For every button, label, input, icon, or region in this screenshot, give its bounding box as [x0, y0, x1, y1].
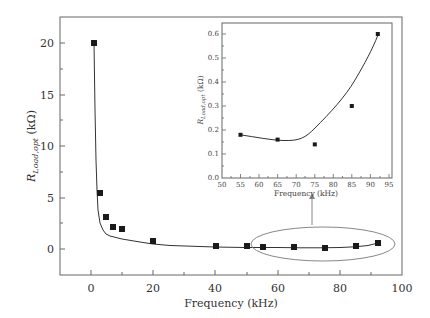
inset-y-tick-0.0: 0.0	[208, 174, 219, 182]
y-tick-5: 5	[47, 192, 54, 205]
chart-figure: 0 20 40 60 80 100 Frequency (kHz) 0 5 10…	[0, 0, 430, 318]
y-tick-20: 20	[40, 37, 54, 50]
x-tick-100: 100	[392, 282, 413, 295]
inset-y-tick-0.5: 0.5	[208, 54, 219, 62]
x-tick-60: 60	[271, 282, 285, 295]
x-tick-0: 0	[88, 282, 95, 295]
inset-x-tick-80: 80	[329, 181, 338, 189]
y-tick-0: 0	[47, 243, 54, 256]
inset-x-tick-60: 60	[255, 181, 264, 189]
inset-plot: 50 55 60 65 70 75 80 85 90 95 Frequency …	[196, 23, 393, 198]
main-y-axis-title: RLoad,opt (kΩ)	[25, 110, 40, 183]
inset-x-tick-85: 85	[347, 181, 356, 189]
inset-y-tick-0.3: 0.3	[208, 102, 219, 110]
inset-x-tick-55: 55	[236, 181, 245, 189]
x-tick-80: 80	[333, 282, 347, 295]
inset-y-tick-0.1: 0.1	[208, 150, 219, 158]
inset-x-tick-65: 65	[273, 181, 282, 189]
x-tick-20: 20	[146, 282, 160, 295]
y-tick-10: 10	[40, 140, 54, 153]
inset-x-axis-title: Frequency (kHz)	[274, 189, 338, 198]
main-x-ticks	[91, 270, 371, 275]
inset-frame	[222, 23, 392, 178]
inset-y-tick-labels: 0.0 0.1 0.2 0.3 0.4 0.5 0.6	[208, 30, 220, 182]
main-y-ticks	[60, 43, 65, 249]
main-x-axis-title: Frequency (kHz)	[184, 297, 278, 310]
inset-y-tick-0.4: 0.4	[208, 78, 220, 86]
inset-x-tick-75: 75	[310, 181, 319, 189]
inset-y-axis-title: RLoad,opt (kΩ)	[196, 75, 207, 125]
main-x-tick-labels: 0 20 40 60 80 100	[88, 282, 413, 295]
inset-x-tick-95: 95	[385, 181, 394, 189]
inset-y-tick-0.6: 0.6	[208, 30, 220, 38]
inset-x-tick-70: 70	[292, 181, 301, 189]
inset-x-tick-labels: 50 55 60 65 70 75 80 85 90 95	[218, 181, 394, 189]
y-tick-15: 15	[40, 89, 54, 102]
x-tick-40: 40	[208, 282, 222, 295]
inset-y-tick-0.2: 0.2	[208, 126, 219, 134]
inset-x-tick-90: 90	[366, 181, 375, 189]
inset-x-tick-50: 50	[218, 181, 227, 189]
main-y-tick-labels: 0 5 10 15 20	[40, 37, 54, 256]
